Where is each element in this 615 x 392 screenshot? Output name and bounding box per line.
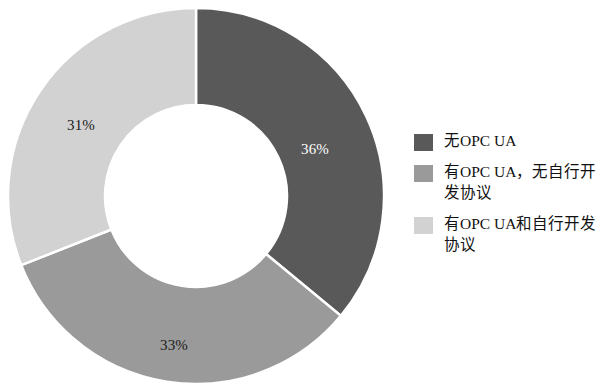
donut-chart-figure: 36% 33% 31% 无OPC UA 有OPC UA，无自行开发协议 有OPC… bbox=[0, 0, 615, 392]
donut-chart-svg bbox=[0, 0, 400, 392]
legend-swatch-icon-2 bbox=[414, 217, 433, 234]
chart-legend: 无OPC UA 有OPC UA，无自行开发协议 有OPC UA和自行开发协议 bbox=[414, 131, 614, 266]
legend-swatch-icon-1 bbox=[414, 165, 433, 182]
legend-label-1: 有OPC UA，无自行开发协议 bbox=[444, 162, 604, 203]
donut-slice-0[interactable] bbox=[196, 8, 384, 316]
donut-slice-group bbox=[8, 8, 384, 384]
legend-item-2[interactable]: 有OPC UA和自行开发协议 bbox=[414, 214, 614, 255]
legend-item-1[interactable]: 有OPC UA，无自行开发协议 bbox=[414, 162, 614, 203]
legend-label-0: 无OPC UA bbox=[444, 131, 604, 151]
legend-label-2: 有OPC UA和自行开发协议 bbox=[444, 214, 604, 255]
legend-item-0[interactable]: 无OPC UA bbox=[414, 131, 614, 151]
legend-swatch-icon-0 bbox=[414, 134, 433, 151]
donut-slice-2[interactable] bbox=[8, 8, 196, 265]
donut-chart-plot-area: 36% 33% 31% bbox=[0, 0, 400, 392]
